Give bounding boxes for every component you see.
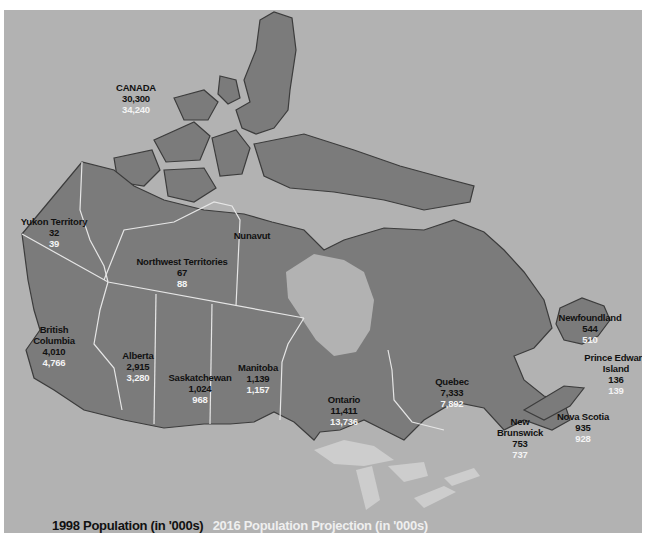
- region-name: Manitoba: [238, 362, 278, 373]
- label-alberta: Alberta 2,915 3,280: [122, 350, 153, 383]
- legend-1998: 1998 Population (in '000s): [52, 518, 203, 533]
- population-1998: 32: [21, 227, 88, 238]
- population-1998: 136: [576, 374, 642, 385]
- label-british-columbia: British Columbia 4,010 4,766: [24, 324, 84, 368]
- population-2016: 4,766: [24, 357, 84, 368]
- region-name: Nova Scotia: [557, 411, 609, 422]
- population-2016: 39: [21, 238, 88, 249]
- label-prince-edward-island: Prince Edward Island 136 139: [576, 352, 642, 396]
- population-2016: 139: [576, 385, 642, 396]
- population-2016: 13,736: [328, 416, 360, 427]
- population-1998: 1,024: [168, 383, 231, 394]
- label-saskatchewan: Saskatchewan 1,024 968: [168, 372, 231, 405]
- region-name: Ontario: [328, 394, 360, 405]
- region-name: Saskatchewan: [168, 372, 231, 383]
- label-quebec: Quebec 7,333 7,892: [435, 376, 469, 409]
- population-2016: 88: [136, 278, 227, 289]
- map-frame: CANADA 30,300 34,240 Yukon Territory 32 …: [4, 10, 642, 533]
- population-2016: 34,240: [116, 104, 156, 115]
- label-northwest-territories: Northwest Territories 67 88: [136, 256, 227, 289]
- population-1998: 4,010: [24, 346, 84, 357]
- region-name: New Brunswick: [490, 416, 550, 438]
- region-name: Yukon Territory: [21, 216, 88, 227]
- region-name: Newfoundland: [558, 312, 621, 323]
- region-name: British Columbia: [24, 324, 84, 346]
- population-2016: 7,892: [435, 398, 469, 409]
- label-canada: CANADA 30,300 34,240: [116, 82, 156, 115]
- label-nova-scotia: Nova Scotia 935 928: [557, 411, 609, 444]
- region-name: Prince Edward Island: [576, 352, 642, 374]
- ellesmere-island: [236, 12, 296, 134]
- population-2016: 737: [490, 449, 550, 460]
- legend-2016: 2016 Population Projection (in '000s): [213, 518, 428, 533]
- population-2016: 928: [557, 433, 609, 444]
- population-1998: 544: [558, 323, 621, 334]
- population-2016: 968: [168, 394, 231, 405]
- label-newfoundland: Newfoundland 544 510: [558, 312, 621, 345]
- population-2016: 3,280: [122, 372, 153, 383]
- population-1998: 753: [490, 438, 550, 449]
- legend: 1998 Population (in '000s) 2016 Populati…: [52, 518, 428, 533]
- baffin-island: [254, 134, 474, 210]
- population-2016: 1,157: [238, 384, 278, 395]
- population-1998: 1,139: [238, 373, 278, 384]
- label-ontario: Ontario 11,411 13,736: [328, 394, 360, 427]
- population-2016: 510: [558, 334, 621, 345]
- population-1998: 30,300: [116, 93, 156, 104]
- region-name: Nunavut: [234, 230, 271, 241]
- population-1998: 7,333: [435, 387, 469, 398]
- region-name: Northwest Territories: [136, 256, 227, 267]
- population-1998: 11,411: [328, 405, 360, 416]
- region-name: CANADA: [116, 82, 156, 93]
- region-name: Alberta: [122, 350, 153, 361]
- label-new-brunswick: New Brunswick 753 737: [490, 416, 550, 460]
- label-nunavut: Nunavut: [234, 230, 271, 241]
- population-1998: 67: [136, 267, 227, 278]
- label-yukon: Yukon Territory 32 39: [21, 216, 88, 249]
- label-manitoba: Manitoba 1,139 1,157: [238, 362, 278, 395]
- population-1998: 2,915: [122, 361, 153, 372]
- region-name: Quebec: [435, 376, 469, 387]
- population-1998: 935: [557, 422, 609, 433]
